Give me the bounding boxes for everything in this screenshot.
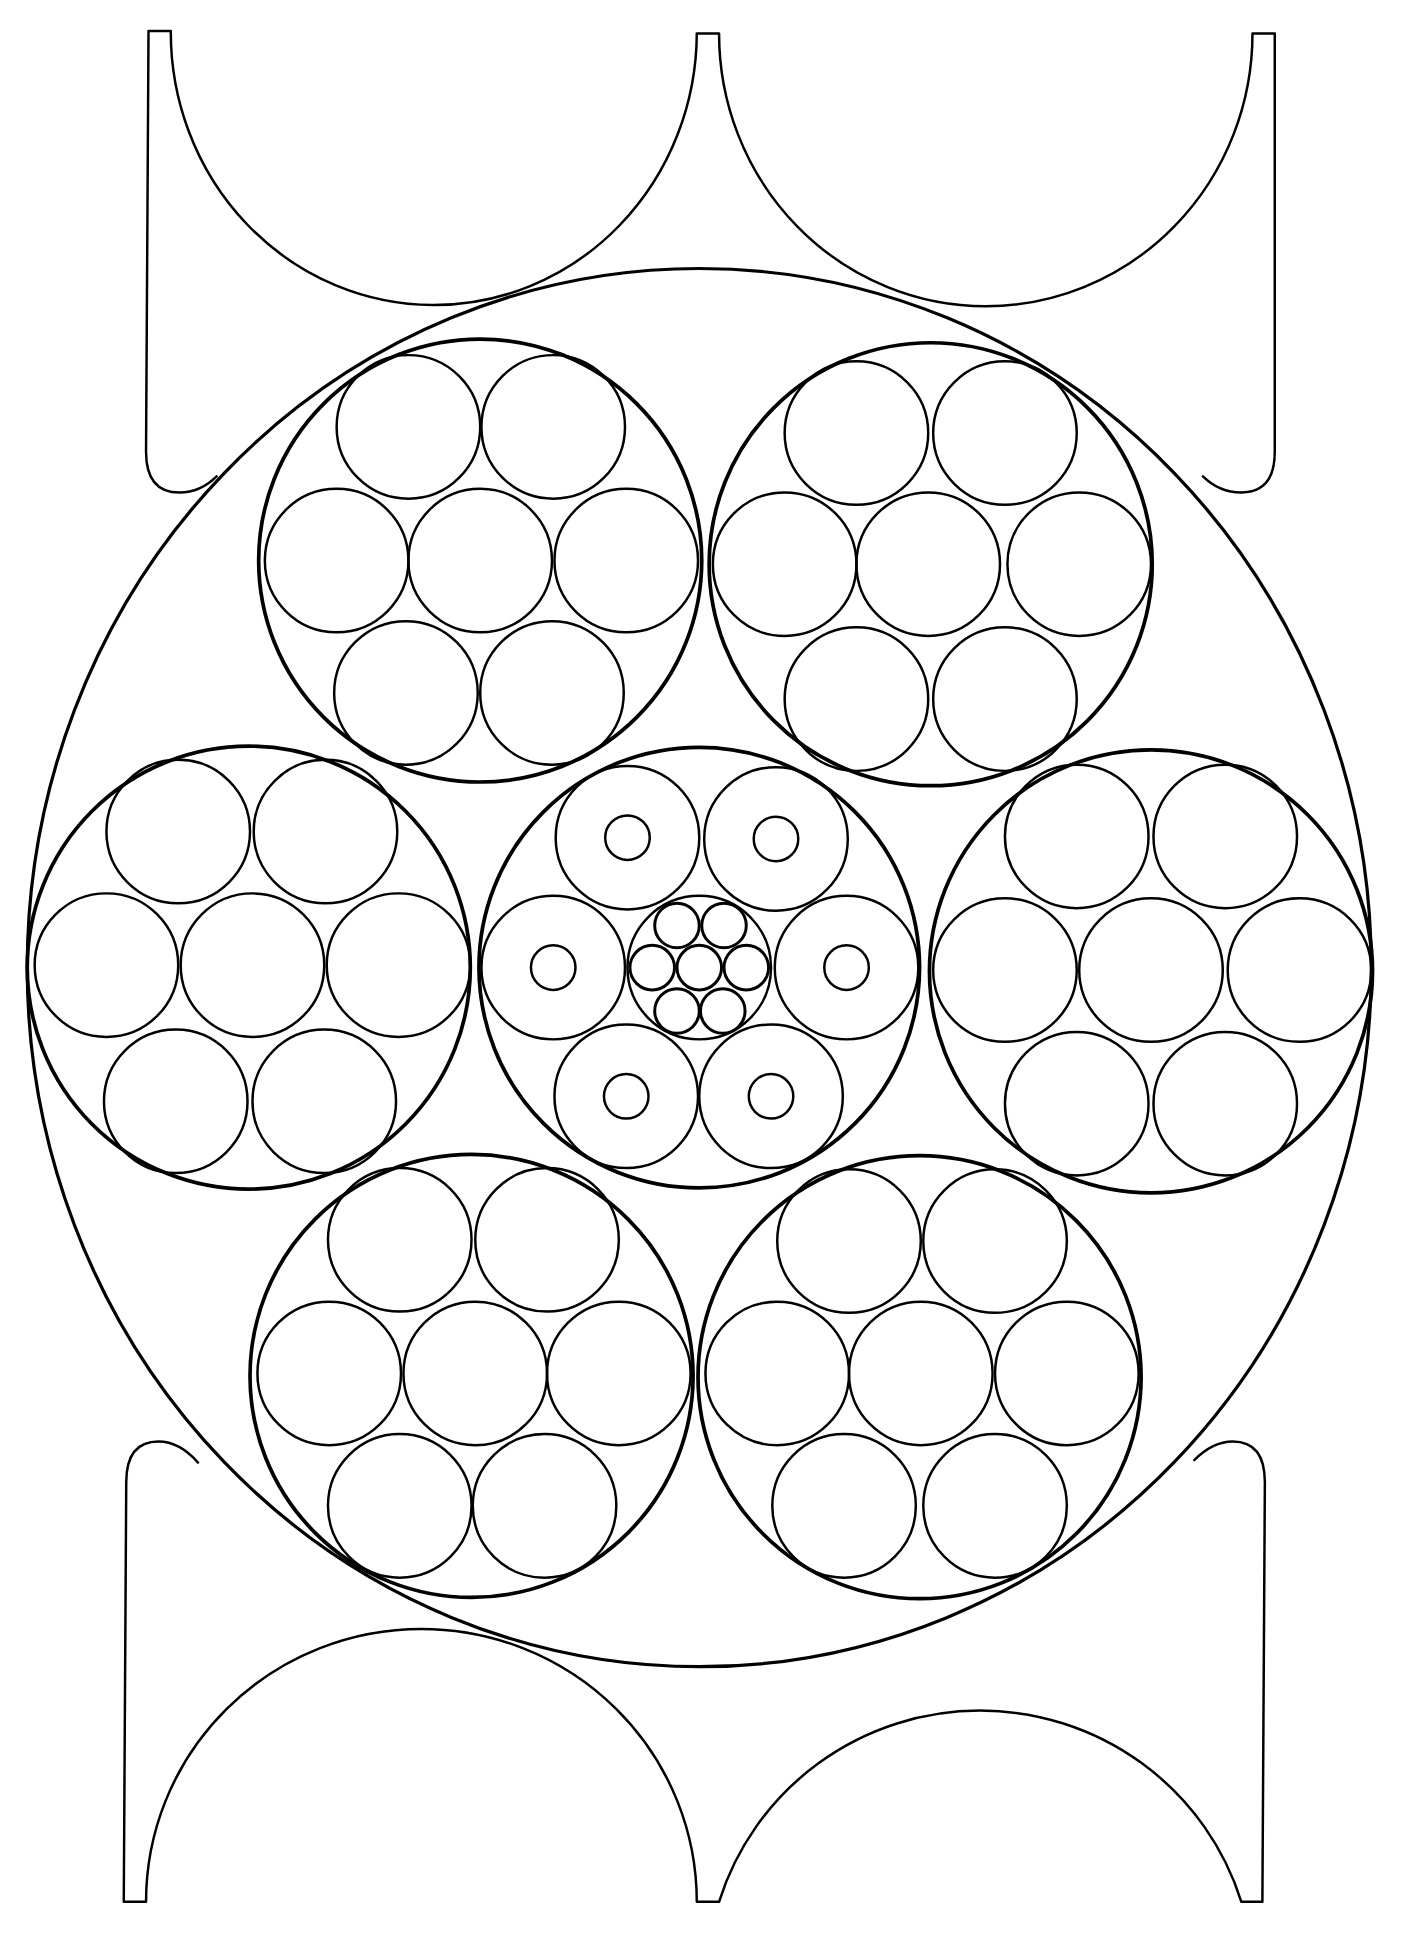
- canvas-background: [0, 0, 1401, 1934]
- coloring-page-artwork: [0, 0, 1401, 1934]
